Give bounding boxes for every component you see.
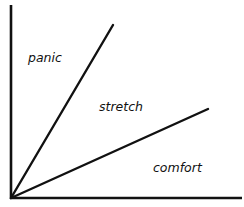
zones-diagram: panic stretch comfort <box>0 0 244 207</box>
zone-label-panic: panic <box>27 50 62 65</box>
zone-label-comfort: comfort <box>153 160 203 175</box>
panic-stretch-boundary <box>11 25 113 198</box>
zone-label-stretch: stretch <box>99 99 143 114</box>
stretch-comfort-boundary <box>11 109 208 198</box>
